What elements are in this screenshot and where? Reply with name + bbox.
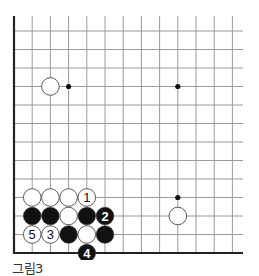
white-stone: 1 [78,189,96,207]
figure-caption: 그림3 [12,258,43,276]
black-stone: 4 [78,244,96,260]
black-stone [78,207,96,225]
white-stone [60,189,78,207]
black-stone [23,207,41,225]
move-number: 2 [101,209,108,224]
move-number: 4 [83,246,91,260]
black-stone [42,207,60,225]
white-stone: 5 [23,226,41,244]
black-stone [96,226,114,244]
star-point [175,84,180,89]
move-number: 1 [83,190,90,205]
star-point [175,195,180,200]
white-stone [78,226,96,244]
white-stone [42,78,60,96]
white-stone [42,189,60,207]
white-stone [60,207,78,225]
white-stone: 3 [42,226,60,244]
white-stone [23,189,41,207]
star-point [66,84,71,89]
white-stone [169,207,187,225]
black-stone [60,226,78,244]
move-number: 3 [47,227,54,242]
go-board: 12534 [0,0,259,260]
black-stone: 2 [96,207,114,225]
move-number: 5 [29,227,36,242]
